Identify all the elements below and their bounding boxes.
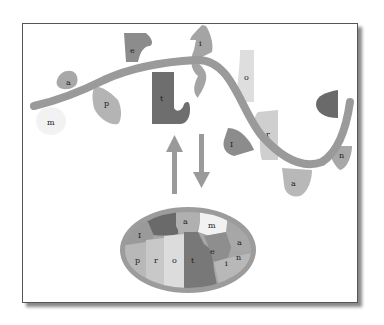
svg-text:m: m [208, 221, 216, 230]
svg-text:I: I [230, 140, 233, 149]
svg-text:n: n [339, 151, 344, 160]
svg-text:m: m [47, 118, 55, 127]
svg-text:o: o [172, 256, 177, 265]
fold-arrow-up [166, 135, 183, 194]
residue-I: I [223, 128, 254, 156]
residue-a-2: a [282, 168, 312, 196]
residue-p: p [93, 87, 122, 124]
protein-folding-diagram: m a p e t i o I r a [0, 0, 384, 325]
svg-text:p: p [135, 256, 140, 265]
amino-acid-chain [34, 60, 350, 164]
svg-text:o: o [244, 73, 249, 82]
svg-text:a: a [66, 78, 71, 87]
svg-text:i: i [199, 39, 202, 48]
unfold-arrow-down [193, 134, 210, 188]
svg-text:r: r [154, 256, 158, 265]
svg-text:p: p [104, 99, 109, 108]
residue-t: t [152, 72, 190, 124]
residue-m: m [36, 107, 66, 135]
residue-dark-cap [316, 90, 338, 118]
residue-a-1: a [57, 71, 78, 90]
svg-text:a: a [291, 179, 296, 188]
svg-text:e: e [210, 247, 215, 256]
folded-protein: I a m p r o t e i n a [120, 205, 260, 295]
residue-e: e [124, 33, 152, 62]
svg-text:n: n [236, 253, 241, 262]
svg-text:i: i [225, 259, 228, 268]
svg-text:a: a [183, 217, 188, 226]
svg-text:I: I [138, 231, 141, 240]
svg-text:e: e [130, 46, 135, 55]
svg-text:a: a [237, 238, 242, 247]
